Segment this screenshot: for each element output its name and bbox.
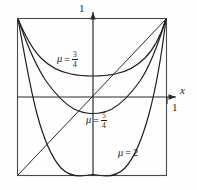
equals-symbol: = [93,116,99,126]
fraction-five-quarters: 5 4 [101,112,107,129]
fraction-denominator: 4 [72,59,78,68]
fraction-numerator: 5 [101,112,107,120]
figure-container: 1 1 x μ = 3 4 μ = 5 4 μ = 2 [0,0,197,190]
mu-symbol: μ [57,54,62,65]
mu-symbol: μ [118,148,123,159]
curve-label-mu-two: μ = 2 [118,148,138,159]
x-axis-label: x [180,85,185,96]
fraction-numerator: 3 [72,51,78,59]
plot-canvas [0,0,197,190]
mu-value: 2 [133,148,138,159]
curve-label-mu-three-quarters: μ = 3 4 [57,51,78,68]
curve-label-mu-five-quarters: μ = 5 4 [86,112,107,129]
curve-mu-three-quarters [18,19,166,76]
mu-symbol: μ [86,115,91,126]
x-axis-unit-label: 1 [172,102,178,113]
fraction-three-quarters: 3 4 [72,51,78,68]
x-axis-arrowhead [169,94,177,100]
y-axis-unit-label: 1 [79,3,85,14]
equals-symbol: = [64,55,70,65]
y-axis-arrowhead [90,12,95,20]
fraction-denominator: 4 [101,120,107,129]
curve-mu-five-quarters [18,19,166,114]
equals-symbol: = [125,148,131,158]
